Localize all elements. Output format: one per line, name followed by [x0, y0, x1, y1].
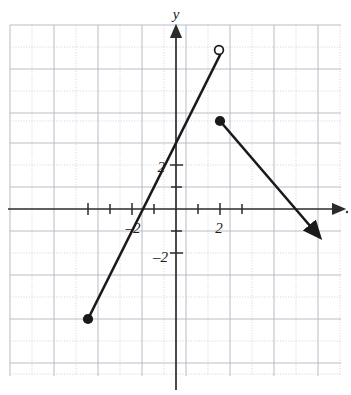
open-endpoint-upper: [215, 46, 224, 55]
x-tick-label-positive-2: 2: [215, 220, 223, 236]
closed-endpoint-lower-left: [83, 314, 93, 324]
y-axis-label: y: [171, 6, 180, 22]
y-tick-label-negative-2: –2: [152, 249, 169, 265]
coordinate-plane-svg: –2 2 2 –2 y: [0, 0, 351, 395]
x-axis-end-dot: [346, 211, 348, 213]
closed-endpoint-right-branch: [215, 116, 225, 126]
axes: [8, 36, 348, 390]
graph-figure: –2 2 2 –2 y: [0, 0, 351, 395]
decreasing-branch-ray: [220, 121, 311, 227]
